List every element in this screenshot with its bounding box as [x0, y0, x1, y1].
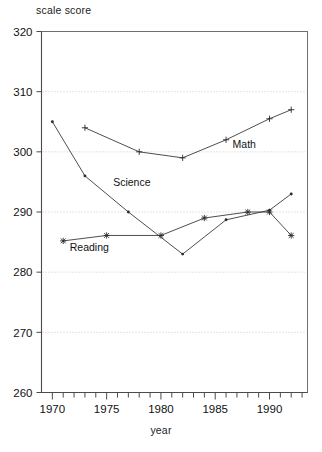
data-point-science	[83, 174, 86, 177]
series-label-math: Math	[233, 138, 257, 150]
y-tick-label: 300	[13, 146, 32, 158]
y-tick-group: 260270280290300310320	[13, 26, 41, 399]
y-tick-label: 310	[13, 86, 32, 98]
y-tick-label: 320	[13, 26, 32, 38]
line-chart: scale score 260270280290300310320 197019…	[0, 0, 322, 452]
y-axis-title: scale score	[36, 4, 91, 16]
series-line-math	[85, 110, 291, 158]
x-tick-label: 1980	[148, 403, 174, 415]
x-tick-label: 1975	[94, 403, 120, 415]
x-tick-group: 19701975198019851990	[40, 393, 303, 415]
x-tick-label: 1990	[257, 403, 283, 415]
plot-area: 260270280290300310320 197019751980198519…	[0, 0, 322, 452]
data-point-science	[127, 211, 130, 214]
x-tick-label: 1985	[202, 403, 228, 415]
data-point-science	[225, 218, 228, 221]
data-point-science	[181, 253, 184, 256]
y-tick-label: 270	[13, 327, 32, 339]
series-line-reading	[63, 212, 291, 241]
y-tick-label: 280	[13, 266, 32, 278]
y-tick-label: 260	[13, 387, 32, 399]
series-label-science: Science	[113, 176, 151, 188]
data-point-science	[290, 193, 293, 196]
series-group	[51, 107, 294, 256]
series-label-reading: Reading	[70, 241, 109, 253]
x-tick-label: 1970	[40, 403, 66, 415]
x-axis-title: year	[0, 424, 322, 436]
y-tick-label: 290	[13, 206, 32, 218]
data-point-science	[51, 120, 54, 123]
